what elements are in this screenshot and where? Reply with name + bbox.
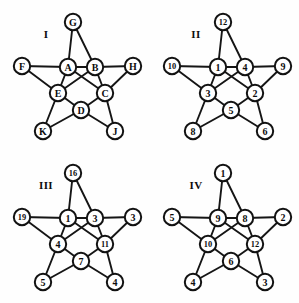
node-label-outer_top: G [69, 17, 77, 28]
node-outer_bottomright[interactable]: 3 [257, 274, 273, 290]
node-label-inner_right: 2 [253, 88, 258, 99]
node-label-outer_left: 10 [168, 62, 176, 71]
node-inner_bottom[interactable]: 5 [223, 102, 239, 118]
node-inner_topright[interactable]: 4 [237, 59, 253, 75]
figure-panel-i: IGFHKJABECD [0, 0, 149, 151]
node-inner_topleft[interactable]: 1 [210, 59, 226, 75]
node-label-inner_topright: 8 [243, 213, 248, 224]
node-label-outer_right: 3 [131, 212, 136, 223]
node-outer_left[interactable]: 19 [14, 209, 30, 225]
node-label-outer_right: H [129, 61, 137, 72]
node-label-inner_bottom: 5 [229, 105, 234, 116]
node-label-inner_left: 10 [204, 240, 212, 249]
node-outer_bottomleft[interactable]: 4 [185, 274, 201, 290]
node-label-inner_bottom: D [77, 105, 84, 116]
node-outer_top[interactable]: 1 [215, 165, 231, 181]
node-label-outer_left: 5 [170, 212, 175, 223]
node-outer_bottomright[interactable]: 4 [107, 274, 123, 290]
figure-caption-i: I [44, 28, 49, 40]
node-label-inner_bottom: 6 [229, 256, 234, 267]
node-outer_right[interactable]: 9 [275, 58, 291, 74]
node-inner_right[interactable]: C [97, 85, 113, 101]
node-label-outer_left: F [19, 61, 25, 72]
node-inner_left[interactable]: 3 [200, 85, 216, 101]
node-outer_right[interactable]: 3 [125, 209, 141, 225]
node-label-inner_left: 4 [56, 239, 61, 250]
node-inner_topleft[interactable]: 1 [60, 210, 76, 226]
pentagram-diagram-i: IGFHKJABECD [0, 0, 149, 151]
node-label-inner_bottom: 7 [79, 256, 84, 267]
node-inner_topright[interactable]: B [87, 59, 103, 75]
node-label-inner_topright: B [92, 62, 99, 73]
node-label-inner_topright: 4 [243, 62, 248, 73]
node-label-inner_right: 12 [251, 240, 259, 249]
figure-caption-iv: IV [189, 179, 202, 191]
figure-panel-iii: III1619354134117 [0, 151, 149, 302]
node-outer_right[interactable]: 2 [275, 209, 291, 225]
node-label-inner_topright: 3 [93, 213, 98, 224]
node-inner_right[interactable]: 11 [97, 236, 113, 252]
node-outer_bottomright[interactable]: J [107, 123, 123, 139]
node-label-inner_right: C [101, 88, 108, 99]
node-label-inner_left: 3 [206, 88, 211, 99]
node-outer_top[interactable]: 16 [65, 165, 81, 181]
node-label-outer_right: 2 [281, 212, 286, 223]
node-label-inner_topleft: 1 [216, 62, 221, 73]
node-label-outer_bottomleft: K [39, 126, 47, 137]
node-inner_left[interactable]: 4 [50, 236, 66, 252]
node-label-outer_bottomleft: 4 [191, 277, 196, 288]
node-inner_topright[interactable]: 3 [87, 210, 103, 226]
node-outer_left[interactable]: 10 [164, 58, 180, 74]
node-label-outer_bottomright: 3 [263, 277, 268, 288]
node-label-outer_bottomleft: 8 [191, 126, 196, 137]
node-outer_top[interactable]: 12 [215, 14, 231, 30]
node-label-outer_bottomright: J [113, 126, 118, 137]
node-outer_bottomleft[interactable]: K [35, 123, 51, 139]
pentagram-diagram-iv: IV152439810126 [150, 151, 299, 302]
node-outer_left[interactable]: 5 [164, 209, 180, 225]
figure-caption-iii: III [39, 179, 53, 191]
figure-panel-ii: II121098614325 [150, 0, 299, 151]
node-inner_topleft[interactable]: A [60, 59, 76, 75]
node-label-inner_topleft: A [64, 62, 72, 73]
node-label-inner_topleft: 9 [216, 213, 221, 224]
pentagram-figure-sheet: IGFHKJABECD II121098614325 III1619354134… [0, 0, 299, 303]
pentagram-diagram-ii: II121098614325 [150, 0, 299, 151]
node-inner_right[interactable]: 2 [247, 85, 263, 101]
node-inner_bottom[interactable]: 6 [223, 253, 239, 269]
node-label-inner_right: 11 [101, 240, 109, 249]
node-label-outer_top: 16 [69, 169, 77, 178]
node-inner_right[interactable]: 12 [247, 236, 263, 252]
node-label-outer_bottomleft: 5 [41, 277, 46, 288]
node-inner_left[interactable]: 10 [200, 236, 216, 252]
node-outer_top[interactable]: G [65, 14, 81, 30]
figure-caption-ii: II [191, 28, 200, 40]
figure-panel-iv: IV152439810126 [150, 151, 299, 302]
node-label-inner_topleft: 1 [66, 213, 71, 224]
node-label-outer_bottomright: 4 [113, 277, 118, 288]
node-outer_bottomleft[interactable]: 8 [185, 123, 201, 139]
node-label-outer_bottomright: 6 [263, 126, 268, 137]
node-inner_topleft[interactable]: 9 [210, 210, 226, 226]
node-inner_topright[interactable]: 8 [237, 210, 253, 226]
node-outer_bottomleft[interactable]: 5 [35, 274, 51, 290]
node-outer_right[interactable]: H [125, 58, 141, 74]
node-outer_bottomright[interactable]: 6 [257, 123, 273, 139]
node-label-outer_top: 1 [221, 168, 226, 179]
node-label-outer_top: 12 [219, 18, 227, 27]
pentagram-diagram-iii: III1619354134117 [0, 151, 149, 302]
node-label-outer_left: 19 [18, 213, 26, 222]
node-label-inner_left: E [55, 88, 62, 99]
node-inner_left[interactable]: E [50, 85, 66, 101]
node-outer_left[interactable]: F [14, 58, 30, 74]
node-label-outer_right: 9 [281, 61, 286, 72]
node-inner_bottom[interactable]: D [73, 102, 89, 118]
node-inner_bottom[interactable]: 7 [73, 253, 89, 269]
